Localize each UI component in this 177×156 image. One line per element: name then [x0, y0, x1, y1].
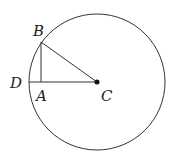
segment-bc — [41, 42, 97, 82]
label-b: B — [32, 22, 44, 40]
label-d: D — [9, 74, 22, 92]
center-point-c — [95, 80, 100, 85]
geometry-diagram: B D A C — [0, 0, 177, 156]
label-a: A — [34, 87, 47, 105]
label-c: C — [101, 87, 113, 105]
